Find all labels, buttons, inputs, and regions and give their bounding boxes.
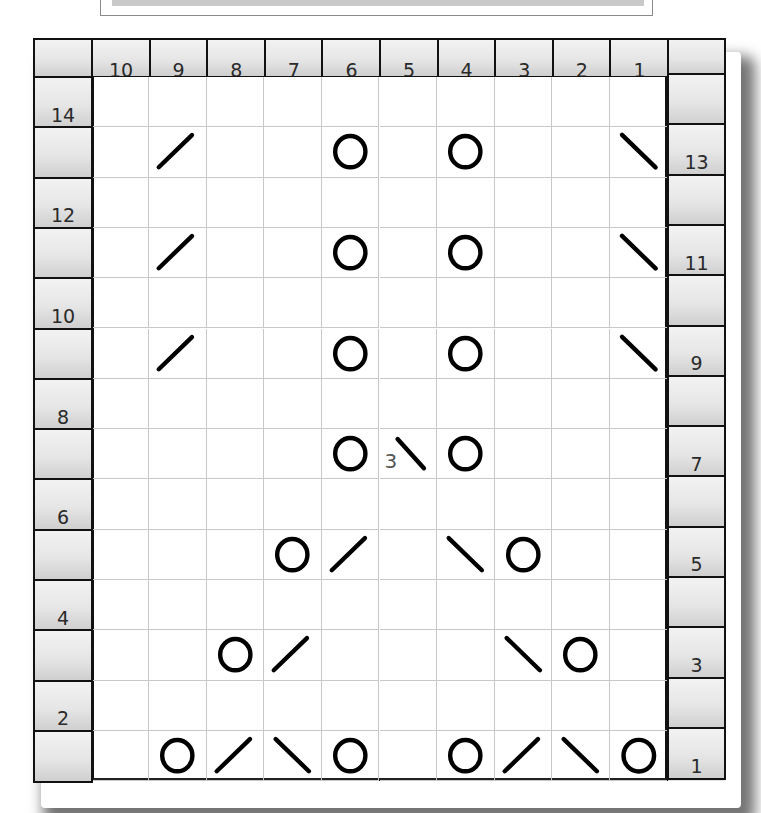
yarn-over-icon	[437, 228, 494, 277]
grid-cell	[495, 379, 553, 429]
grid-cell	[264, 228, 322, 278]
column-number: 6	[345, 61, 357, 78]
grid-cell	[92, 630, 150, 680]
grid-cell	[437, 479, 495, 529]
row-label-5: 5	[667, 526, 726, 579]
row-number: 13	[684, 153, 708, 174]
yarn-over-icon	[322, 228, 379, 277]
grid-cell	[495, 479, 553, 529]
row-label-10: 10	[33, 277, 93, 330]
grid-cell	[92, 278, 150, 328]
grid-cell	[92, 479, 150, 529]
grid-cell	[149, 228, 207, 278]
grid-cell	[322, 429, 380, 479]
row-label-4: 4	[33, 579, 93, 632]
row-label-2: 2	[33, 680, 93, 733]
grid-cell	[264, 681, 322, 731]
yarn-over-icon	[322, 429, 379, 478]
grid-cell	[610, 681, 668, 731]
grid-cell	[380, 479, 438, 529]
column-header-9: 9	[149, 38, 209, 78]
grid-cell	[495, 178, 553, 228]
grid-cell	[610, 329, 668, 379]
row-number: 6	[57, 508, 69, 529]
row-label-7: 7	[667, 425, 726, 478]
grid-cell	[149, 178, 207, 228]
right-decrease-icon	[149, 228, 206, 277]
grid-cell	[264, 329, 322, 379]
right-decrease-icon	[264, 630, 321, 679]
grid-cell	[610, 731, 668, 781]
grid-cell	[437, 681, 495, 731]
grid-cell	[149, 530, 207, 580]
column-number: 4	[461, 61, 473, 78]
grid-cell	[495, 429, 553, 479]
grid-cell	[207, 178, 265, 228]
grid-cell	[149, 580, 207, 630]
grid-cell	[495, 329, 553, 379]
yarn-over-icon	[322, 127, 379, 176]
grid-cell	[380, 178, 438, 228]
grid-cell	[207, 127, 265, 177]
grid-cell	[322, 681, 380, 731]
grid-cell	[552, 278, 610, 328]
grid-cell	[149, 379, 207, 429]
grid-cell	[207, 731, 265, 781]
grid-cell	[380, 127, 438, 177]
grid-cell	[207, 278, 265, 328]
row-label-12: 12	[33, 177, 93, 230]
row-label-11: 11	[667, 224, 726, 277]
grid-cell	[92, 580, 150, 630]
grid-cell	[495, 580, 553, 630]
right-decrease-icon	[149, 329, 206, 378]
row-label-3: 3	[667, 626, 726, 679]
grid-cell	[552, 479, 610, 529]
grid-cell	[380, 630, 438, 680]
grid-cell	[92, 77, 150, 127]
yarn-over-icon	[437, 731, 494, 780]
yarn-over-icon	[437, 329, 494, 378]
row-number: 10	[51, 307, 75, 328]
grid-cell	[437, 580, 495, 630]
grid-cell	[264, 731, 322, 781]
grid-cell	[149, 329, 207, 379]
row-label-blank	[33, 428, 93, 481]
grid-cell	[495, 630, 553, 680]
grid-cell	[207, 681, 265, 731]
right-decrease-icon	[149, 127, 206, 176]
grid-cell	[552, 681, 610, 731]
row-number: 7	[690, 455, 702, 476]
grid-cell	[552, 77, 610, 127]
row-label-1: 1	[667, 727, 726, 780]
grid-cell	[207, 530, 265, 580]
row-label-6: 6	[33, 478, 93, 531]
grid-cell	[610, 228, 668, 278]
column-header-2: 2	[552, 38, 612, 78]
grid-cell	[380, 278, 438, 328]
row-number: 3	[690, 656, 702, 677]
column-header-5: 5	[379, 38, 439, 78]
grid-cell	[437, 278, 495, 328]
left-decrease-icon	[610, 329, 668, 378]
right-decrease-icon	[322, 530, 379, 579]
column-number: 9	[173, 61, 185, 78]
column-header-7: 7	[264, 38, 324, 78]
column-number: 5	[403, 61, 415, 78]
grid-cell	[92, 530, 150, 580]
row-label-9: 9	[667, 325, 726, 378]
yarn-over-icon	[437, 127, 494, 176]
grid-cell	[322, 731, 380, 781]
grid-cell	[552, 329, 610, 379]
grid-cell	[207, 379, 265, 429]
left-decrease-icon	[264, 731, 321, 780]
grid-cell	[437, 429, 495, 479]
grid-cell	[380, 530, 438, 580]
grid-cell	[207, 429, 265, 479]
grid-cell	[610, 77, 668, 127]
grid-cell	[552, 228, 610, 278]
grid-cell	[322, 127, 380, 177]
row-number: 9	[690, 354, 702, 375]
grid-cell	[322, 379, 380, 429]
grid-cell	[92, 127, 150, 177]
column-header-4: 4	[437, 38, 497, 78]
